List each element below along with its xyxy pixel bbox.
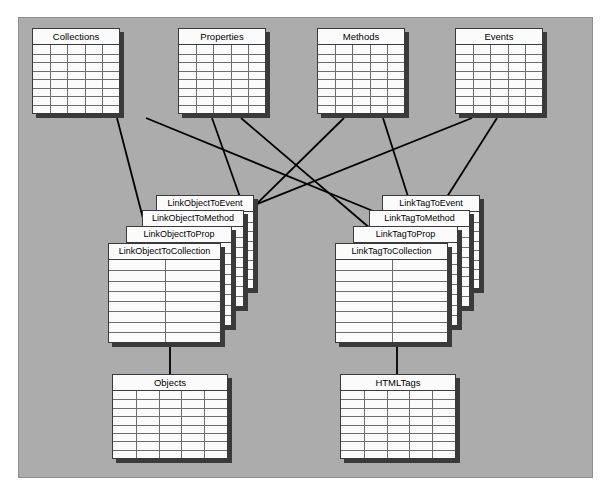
grid-row-line	[33, 71, 119, 72]
grid-row-line	[113, 441, 227, 442]
grid-column-line	[165, 260, 166, 342]
grid-row-line	[179, 79, 265, 80]
grid-row-line	[341, 399, 455, 400]
entity-events[interactable]: Events	[455, 28, 543, 114]
grid-row-line	[179, 54, 265, 55]
grid-row-line	[33, 54, 119, 55]
grid-row-line	[318, 105, 404, 106]
grid-column-line	[370, 45, 371, 113]
grid-row-line	[179, 96, 265, 97]
grid-column-line	[204, 391, 205, 458]
grid-row-line	[179, 71, 265, 72]
entity-properties[interactable]: Properties	[178, 28, 266, 114]
entity-grid	[109, 260, 220, 342]
grid-row-line	[341, 450, 455, 451]
grid-row-line	[179, 105, 265, 106]
grid-column-line	[231, 45, 232, 113]
grid-column-line	[196, 45, 197, 113]
grid-column-line	[85, 45, 86, 113]
grid-column-line	[364, 391, 365, 458]
entity-title: Collections	[33, 29, 119, 45]
grid-column-line	[473, 45, 474, 113]
grid-column-line	[50, 45, 51, 113]
entity-methods[interactable]: Methods	[317, 28, 405, 114]
grid-row-line	[318, 71, 404, 72]
grid-row-line	[33, 96, 119, 97]
entity-title: LinkObjectToCollection	[109, 244, 220, 260]
entity-grid	[336, 260, 447, 342]
grid-row-line	[456, 71, 542, 72]
entity-box: Collections	[32, 28, 120, 114]
entity-box: Properties	[178, 28, 266, 114]
grid-row-line	[341, 408, 455, 409]
entity-grid	[113, 391, 227, 458]
grid-row-line	[113, 408, 227, 409]
grid-column-line	[67, 45, 68, 113]
entity-box: LinkTagToCollection	[335, 243, 448, 343]
grid-column-line	[525, 45, 526, 113]
entity-grid	[341, 391, 455, 458]
grid-row-line	[113, 425, 227, 426]
grid-column-line	[181, 391, 182, 458]
grid-column-line	[159, 391, 160, 458]
grid-row-line	[341, 433, 455, 434]
entity-box: Objects	[112, 374, 228, 459]
entity-title: HTMLTags	[341, 375, 455, 391]
grid-column-line	[432, 391, 433, 458]
entity-title: LinkObjectToProp	[127, 227, 231, 243]
entity-title: Events	[456, 29, 542, 45]
entity-linkobjecttocollection[interactable]: LinkObjectToCollection	[108, 243, 221, 343]
entity-title: Methods	[318, 29, 404, 45]
grid-column-line	[392, 260, 393, 342]
diagram-canvas: Collections Properties Methods Events Li…	[0, 0, 611, 494]
grid-row-line	[318, 62, 404, 63]
grid-row-line	[318, 79, 404, 80]
grid-column-line	[387, 45, 388, 113]
grid-column-line	[136, 391, 137, 458]
grid-column-line	[102, 45, 103, 113]
grid-row-line	[33, 105, 119, 106]
entity-box: Methods	[317, 28, 405, 114]
entity-grid	[318, 45, 404, 113]
entity-box: LinkObjectToCollection	[108, 243, 221, 343]
entity-linktagtocollection[interactable]: LinkTagToCollection	[335, 243, 448, 343]
grid-column-line	[352, 45, 353, 113]
grid-row-line	[113, 416, 227, 417]
entity-grid	[456, 45, 542, 113]
grid-row-line	[341, 416, 455, 417]
grid-row-line	[341, 425, 455, 426]
grid-row-line	[179, 88, 265, 89]
entity-title: LinkObjectToMethod	[143, 211, 243, 227]
grid-row-line	[456, 62, 542, 63]
grid-row-line	[33, 62, 119, 63]
grid-row-line	[456, 79, 542, 80]
entity-title: Properties	[179, 29, 265, 45]
entity-objects[interactable]: Objects	[112, 374, 228, 459]
grid-column-line	[409, 391, 410, 458]
grid-row-line	[318, 54, 404, 55]
grid-column-line	[508, 45, 509, 113]
grid-row-line	[341, 441, 455, 442]
grid-row-line	[456, 54, 542, 55]
grid-row-line	[318, 88, 404, 89]
grid-row-line	[33, 88, 119, 89]
grid-row-line	[318, 96, 404, 97]
grid-row-line	[113, 450, 227, 451]
grid-row-line	[179, 62, 265, 63]
entity-title: LinkTagToMethod	[370, 211, 469, 227]
grid-column-line	[387, 391, 388, 458]
entity-title: LinkTagToCollection	[336, 244, 447, 260]
entity-title: Objects	[113, 375, 227, 391]
grid-row-line	[33, 79, 119, 80]
entity-grid	[179, 45, 265, 113]
grid-row-line	[113, 433, 227, 434]
entity-collections[interactable]: Collections	[32, 28, 120, 114]
grid-column-line	[335, 45, 336, 113]
entity-title: LinkTagToProp	[354, 227, 457, 243]
grid-row-line	[456, 88, 542, 89]
grid-row-line	[456, 96, 542, 97]
entity-grid	[33, 45, 119, 113]
grid-row-line	[456, 105, 542, 106]
entity-box: HTMLTags	[340, 374, 456, 459]
entity-htmltags[interactable]: HTMLTags	[340, 374, 456, 459]
